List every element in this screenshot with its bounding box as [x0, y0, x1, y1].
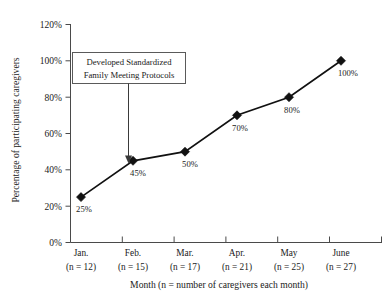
x-sublabel-apr: (n = 21) [222, 262, 252, 273]
y-axis-ticks [66, 25, 71, 243]
y-tick-label-120: 120% [40, 20, 62, 30]
x-tick-label-june: June [332, 248, 349, 258]
y-axis-title: Percentage of participating caregivers [10, 57, 21, 202]
y-tick-label-20: 20% [45, 202, 63, 212]
x-sublabel-feb: (n = 15) [118, 262, 148, 273]
x-axis-ticks [122, 237, 329, 243]
intervention-callout[interactable]: Developed Standardized Family Meeting Pr… [73, 53, 186, 164]
y-tick-label-60: 60% [45, 129, 63, 139]
data-point-labels: 25% 45% 50% 70% 80% 100% [76, 68, 358, 214]
x-axis-title: Month (n = number of caregivers each mon… [130, 279, 308, 291]
x-tick-label-feb: Feb. [125, 248, 141, 258]
y-tick-label-80: 80% [45, 93, 63, 103]
x-sublabel-mar: (n = 17) [170, 262, 200, 273]
y-axis-tick-labels: 120% 100% 80% 60% 40% 20% 0% [40, 20, 62, 248]
x-sublabel-may: (n = 25) [274, 262, 304, 273]
data-label-may: 80% [284, 105, 300, 115]
callout-line-2: Family Meeting Protocols [84, 70, 175, 80]
x-tick-label-may: May [280, 248, 297, 258]
y-tick-label-0: 0% [49, 238, 62, 248]
line-chart: Percentage of participating caregivers 1… [0, 0, 392, 297]
x-tick-label-mar: Mar. [176, 248, 193, 258]
data-label-mar: 50% [182, 159, 198, 169]
callout-line-1: Developed Standardized [86, 57, 172, 67]
x-tick-label-jan: Jan. [74, 248, 89, 258]
x-tick-label-apr: Apr. [229, 248, 245, 258]
data-label-feb: 45% [130, 168, 146, 178]
data-label-jan: 25% [76, 204, 92, 214]
x-axis-tick-labels: Jan. (n = 12) Feb. (n = 15) Mar. (n = 17… [66, 248, 356, 273]
y-tick-label-100: 100% [40, 56, 62, 66]
data-label-apr: 70% [232, 123, 248, 133]
x-sublabel-june: (n = 27) [326, 262, 356, 273]
chart-container: Percentage of participating caregivers 1… [0, 0, 392, 297]
y-tick-label-40: 40% [45, 165, 63, 175]
data-label-june: 100% [338, 68, 358, 78]
x-sublabel-jan: (n = 12) [66, 262, 96, 273]
